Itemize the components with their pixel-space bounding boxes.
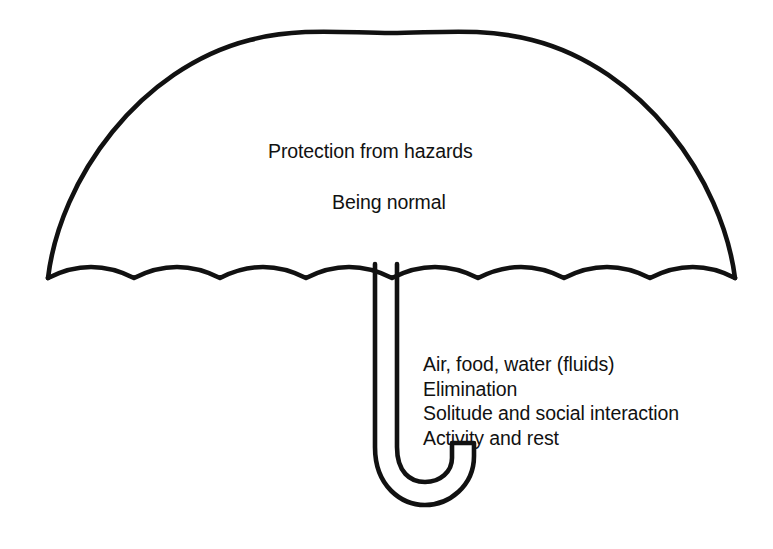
umbrella-illustration — [0, 0, 773, 549]
needs-list-item-elimination: Elimination — [423, 377, 679, 402]
needs-list-item-solitude-social-interaction: Solitude and social interaction — [423, 401, 679, 426]
canopy-label-being-normal: Being normal — [332, 193, 446, 213]
canopy-scalloped-edge — [48, 267, 735, 278]
needs-list-item-air-food-water: Air, food, water (fluids) — [423, 352, 679, 377]
handle-needs-list: Air, food, water (fluids) Elimination So… — [423, 352, 679, 450]
umbrella-diagram-canvas: Protection from hazards Being normal Air… — [0, 0, 773, 549]
needs-list-item-activity-and-rest: Activity and rest — [423, 426, 679, 451]
canopy-label-protection: Protection from hazards — [268, 142, 473, 162]
